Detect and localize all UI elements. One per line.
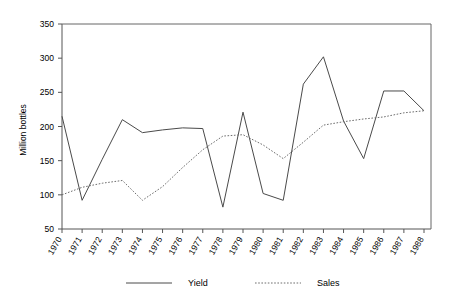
y-axis-title: Million bottles (18, 104, 28, 156)
series-line-sales (62, 111, 424, 201)
x-tick-label: 1978 (206, 235, 224, 257)
x-tick-label: 1973 (106, 235, 124, 257)
y-tick-label: 50 (45, 224, 55, 234)
y-tick-label: 350 (40, 19, 54, 29)
x-tick-label: 1988 (408, 235, 426, 257)
x-tick-label: 1977 (186, 235, 204, 257)
x-tick-label: 1971 (66, 235, 84, 257)
x-tick-label: 1972 (86, 235, 104, 257)
x-tick-label: 1970 (46, 235, 64, 257)
y-tick-label: 250 (40, 87, 54, 97)
x-tick-label: 1983 (307, 235, 325, 257)
x-tick-label: 1975 (146, 235, 164, 257)
x-tick-label: 1985 (347, 235, 365, 257)
series-line-yield (62, 57, 424, 207)
x-tick-label: 1987 (387, 235, 405, 257)
y-tick-label: 150 (40, 156, 54, 166)
y-tick-label: 100 (40, 190, 54, 200)
x-tick-label: 1981 (267, 235, 285, 257)
x-tick-label: 1986 (367, 235, 385, 257)
y-axis-title-text: Million bottles (18, 104, 28, 156)
data-series-group (62, 57, 424, 207)
legend-label-yield: Yield (188, 278, 208, 288)
x-tick-label: 1974 (126, 235, 144, 257)
x-tick-label: 1979 (227, 235, 245, 257)
line-chart: Million bottles 50100150200250300350 197… (0, 0, 450, 304)
y-tick-label: 300 (40, 53, 54, 63)
chart-legend: Yield Sales (126, 278, 340, 288)
chart-figure: Million bottles 50100150200250300350 197… (0, 0, 450, 304)
x-tick-label: 1980 (247, 235, 265, 257)
x-tick-label: 1976 (166, 235, 184, 257)
y-tick-label: 200 (40, 122, 54, 132)
x-axis-ticks: 1970197119721973197419751976197719781979… (46, 229, 426, 256)
x-tick-label: 1984 (327, 235, 345, 257)
x-tick-label: 1982 (287, 235, 305, 257)
legend-label-sales: Sales (317, 278, 340, 288)
y-axis-ticks: 50100150200250300350 (40, 19, 62, 234)
